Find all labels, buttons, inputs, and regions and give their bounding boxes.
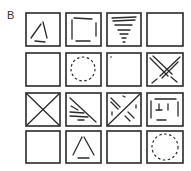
- cell-r4c4: [147, 131, 183, 163]
- cell-r2c2: [66, 53, 101, 86]
- cell-r4c1: [26, 131, 60, 163]
- cell-r4c2: [66, 131, 101, 163]
- cell-r1c4: [147, 13, 183, 46]
- cell-r1c2: [66, 13, 101, 46]
- cell-r1c3: [107, 13, 141, 46]
- cell-r3c2: [66, 93, 101, 126]
- cell-r2c3: [107, 53, 141, 86]
- cell-r3c4: [147, 93, 183, 126]
- cell-r4c3: [107, 131, 141, 163]
- cell-r2c1: [26, 53, 60, 86]
- cell-r3c1: [26, 93, 60, 126]
- pattern-grid: [0, 0, 191, 171]
- cell-r2c4: [147, 53, 183, 86]
- cell-r3c3: [107, 93, 141, 126]
- cell-r1c1: [26, 13, 60, 46]
